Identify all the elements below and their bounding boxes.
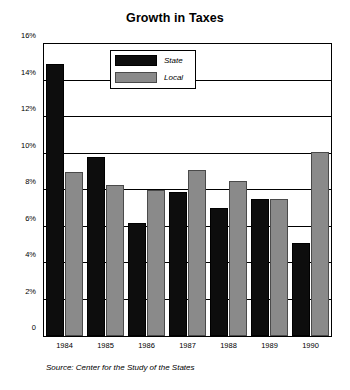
bar-local-1986 <box>147 190 165 336</box>
growth-in-taxes-chart: Growth in Taxes 02%4%6%8%10%12%14%16% 19… <box>0 0 350 390</box>
x-axis: 1984198519861987198819891990 <box>44 341 331 355</box>
bar-state-1984 <box>46 64 64 336</box>
bar-state-1990 <box>292 243 310 336</box>
legend-label-local: Local <box>164 73 183 83</box>
bar-local-1985 <box>106 185 124 336</box>
x-tick-label-1986: 1986 <box>126 341 167 351</box>
y-tick-label-4%: 4% <box>25 251 36 259</box>
x-tick-label-1985: 1985 <box>85 341 126 351</box>
x-tick-label-1987: 1987 <box>167 341 208 351</box>
y-axis: 02%4%6%8%10%12%14%16% <box>0 43 40 337</box>
x-tick-label-1988: 1988 <box>208 341 249 351</box>
bar-local-1988 <box>229 181 247 336</box>
bar-group-1990 <box>290 44 331 336</box>
y-tick-label-0: 0 <box>32 324 36 332</box>
x-tick-label-1990: 1990 <box>290 341 331 351</box>
bar-local-1984 <box>65 172 83 336</box>
y-tick-label-14%: 14% <box>21 69 36 77</box>
chart-legend: State Local <box>110 50 196 89</box>
y-tick-label-2%: 2% <box>25 288 36 296</box>
y-tick-label-10%: 10% <box>21 142 36 150</box>
bar-local-1990 <box>311 152 329 336</box>
bar-group-1984 <box>44 44 85 336</box>
y-tick-label-16%: 16% <box>21 32 36 40</box>
bar-local-1987 <box>188 170 206 336</box>
bar-group-1989 <box>249 44 290 336</box>
bar-local-1989 <box>270 199 288 336</box>
bar-state-1989 <box>251 199 269 336</box>
y-tick-label-12%: 12% <box>21 105 36 113</box>
bar-group-1988 <box>208 44 249 336</box>
x-tick-label-1989: 1989 <box>249 341 290 351</box>
chart-title: Growth in Taxes <box>0 11 350 25</box>
legend-item-state: State <box>115 55 193 67</box>
y-tick-label-8%: 8% <box>25 178 36 186</box>
legend-swatch-state-icon <box>115 55 157 66</box>
legend-label-state: State <box>164 56 183 66</box>
bar-state-1987 <box>169 192 187 336</box>
legend-swatch-local-icon <box>115 72 157 83</box>
bar-state-1986 <box>128 223 146 336</box>
y-tick-label-6%: 6% <box>25 215 36 223</box>
bar-state-1988 <box>210 208 228 336</box>
legend-item-local: Local <box>115 72 193 84</box>
bar-state-1985 <box>87 157 105 336</box>
x-tick-label-1984: 1984 <box>44 341 85 351</box>
source-note: Source: Center for the Study of the Stat… <box>46 363 195 373</box>
